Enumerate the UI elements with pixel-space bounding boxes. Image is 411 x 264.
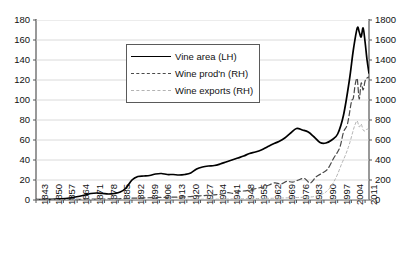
legend-label: Wine prod'n (RH) bbox=[171, 68, 248, 79]
legend-line-swatch bbox=[131, 86, 171, 96]
series-line-wine-exports-rh bbox=[36, 121, 369, 200]
legend-line-swatch bbox=[131, 69, 171, 79]
legend-item: Wine exports (RH) bbox=[131, 82, 253, 99]
chart-container: 020406080100120140160180 020040060080010… bbox=[0, 0, 411, 264]
legend-label: Vine area (LH) bbox=[171, 51, 237, 62]
legend-item: Wine prod'n (RH) bbox=[131, 65, 253, 82]
legend-line-swatch bbox=[131, 52, 171, 62]
legend-item: Vine area (LH) bbox=[131, 48, 253, 65]
chart-legend: Vine area (LH)Wine prod'n (RH)Wine expor… bbox=[126, 44, 260, 103]
legend-label: Wine exports (RH) bbox=[171, 85, 253, 96]
